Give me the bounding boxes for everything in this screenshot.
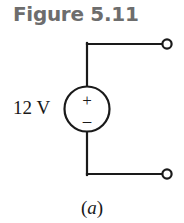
source-voltage-label: 12 V bbox=[13, 97, 50, 119]
subfigure-caption: (a) bbox=[0, 196, 184, 220]
caption-close-paren: ) bbox=[97, 197, 103, 218]
source-plus-sign: + bbox=[82, 91, 92, 110]
caption-letter: a bbox=[87, 197, 97, 218]
top-right-terminal-icon bbox=[162, 39, 171, 48]
source-minus-sign: – bbox=[82, 111, 92, 130]
bottom-right-terminal-icon bbox=[162, 169, 171, 178]
figure-panel: Figure 5.11 + – 12 V (a) bbox=[0, 0, 184, 223]
